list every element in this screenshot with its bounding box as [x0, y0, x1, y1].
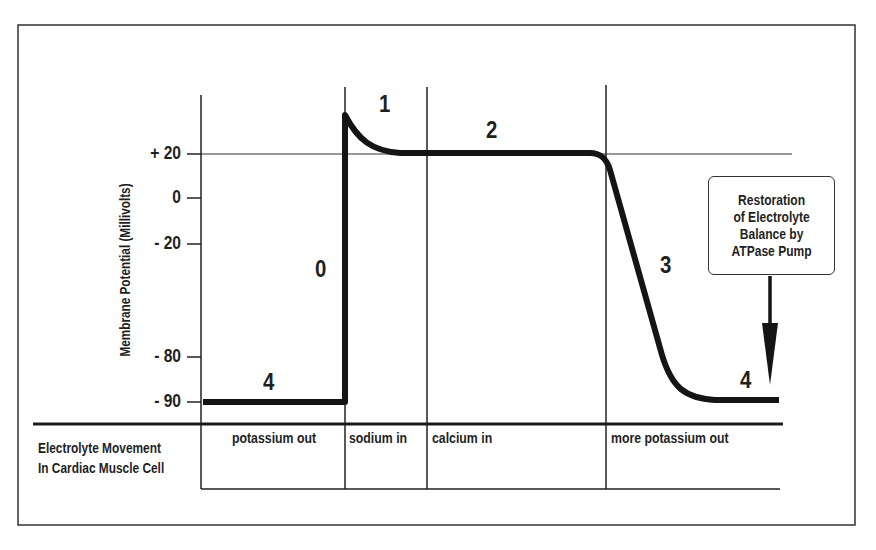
- cell-sodium-in: sodium in: [349, 429, 407, 446]
- action-potential-diagram: + 20 0 - 20 - 80 - 90 Membrane Potential…: [0, 0, 876, 550]
- phase-label-4-end: 4: [740, 366, 751, 394]
- phase-label-3: 3: [660, 251, 671, 279]
- annotation-line-4: ATPase Pump: [731, 243, 811, 260]
- tick-label-0: 0: [132, 186, 181, 208]
- tick-label-minus20: - 20: [132, 232, 181, 254]
- tick-label-minus90: - 90: [132, 390, 181, 412]
- electrolyte-row-title-2: In Cardiac Muscle Cell: [38, 460, 164, 476]
- cell-calcium-in: calcium in: [432, 429, 492, 446]
- arrow-head-icon: [762, 323, 778, 385]
- action-potential-curve: [203, 115, 779, 402]
- tick-label-plus20: + 20: [132, 142, 181, 164]
- cell-potassium-out: potassium out: [232, 429, 316, 446]
- tick-label-minus80: - 80: [132, 345, 181, 367]
- phase-label-4-start: 4: [263, 368, 274, 396]
- annotation-line-1: Restoration: [731, 192, 811, 209]
- cell-more-potassium-out: more potassium out: [611, 429, 729, 446]
- y-axis-title: Membrane Potential (Millivolts): [117, 180, 133, 360]
- phase-label-0: 0: [315, 255, 326, 283]
- phase-label-1: 1: [379, 90, 390, 118]
- atpase-annotation-text: Restoration of Electrolyte Balance by AT…: [731, 192, 811, 260]
- atpase-annotation-box: Restoration of Electrolyte Balance by AT…: [708, 176, 835, 275]
- annotation-line-3: Balance by: [731, 226, 811, 243]
- annotation-line-2: of Electrolyte: [731, 209, 811, 226]
- electrolyte-row-title-1: Electrolyte Movement: [38, 440, 161, 456]
- phase-label-2: 2: [486, 116, 497, 144]
